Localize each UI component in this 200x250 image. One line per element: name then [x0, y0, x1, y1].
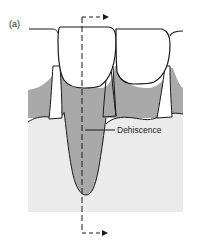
panel-label: (a) [9, 19, 20, 29]
arrow-right-icon [103, 14, 109, 20]
arrow-right-icon [102, 230, 108, 236]
crown-third [170, 31, 183, 36]
crown-central [58, 27, 116, 88]
dehiscence-label: Dehiscence [117, 125, 162, 135]
crown-second [116, 29, 170, 84]
dehiscence-diagram: (a) Dehiscence [0, 0, 200, 250]
